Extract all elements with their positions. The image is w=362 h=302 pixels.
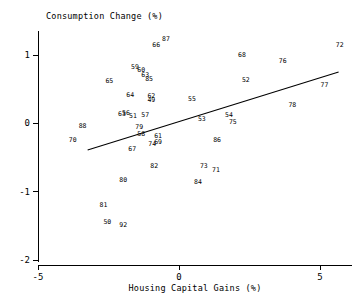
data-point-label: 77 <box>321 81 329 89</box>
data-point-label: 50 <box>103 218 111 226</box>
y-tick-label: -2 <box>19 255 30 265</box>
data-point-label: 57 <box>141 111 149 119</box>
axes-group <box>38 31 352 265</box>
data-point-label: 80 <box>119 176 127 184</box>
chart-canvas: 10-1-2 -505 8766726859766063855265776462… <box>0 0 362 302</box>
y-tick-label: 0 <box>25 118 30 128</box>
data-point-label: 51 <box>129 112 137 120</box>
data-point-label: 55 <box>188 95 196 103</box>
data-point-label: 82 <box>150 162 158 170</box>
x-axis-title: Housing Capital Gains (%) <box>129 283 262 293</box>
data-point-label: 84 <box>194 178 202 186</box>
data-point-label: 68 <box>238 51 246 59</box>
data-point-label: 66 <box>152 41 160 49</box>
data-point-label: 58 <box>137 130 145 138</box>
data-point-label: 69 <box>154 138 162 146</box>
scatter-chart: 10-1-2 -505 8766726859766063855265776462… <box>0 0 362 302</box>
data-point-label: 71 <box>212 166 220 174</box>
data-point-label: 73 <box>200 162 208 170</box>
x-tick-label: -5 <box>33 272 44 282</box>
x-tick-group: -505 <box>33 265 323 282</box>
data-point-label: 87 <box>162 35 170 43</box>
data-point-label: 85 <box>145 75 153 83</box>
data-point-label: 64 <box>126 91 134 99</box>
data-point-label: 92 <box>119 221 127 229</box>
data-point-label: 67 <box>128 145 136 153</box>
data-point-label: 86 <box>213 136 221 144</box>
data-point-label: 72 <box>336 41 344 49</box>
data-point-label: 52 <box>242 76 250 84</box>
data-point-label: 78 <box>288 101 296 109</box>
y-tick-label: 1 <box>25 50 30 60</box>
y-tick-label: -1 <box>19 187 30 197</box>
y-tick-group: 10-1-2 <box>19 50 38 265</box>
data-point-label: 53 <box>198 115 206 123</box>
data-point-label: 65 <box>105 77 113 85</box>
x-tick-label: 0 <box>176 272 181 282</box>
y-axis-title: Consumption Change (%) <box>46 11 163 21</box>
data-point-label: 76 <box>279 57 287 65</box>
data-point-label: 70 <box>69 136 77 144</box>
data-points-group: 8766726859766063855265776462495578635651… <box>69 35 344 229</box>
data-point-label: 75 <box>229 118 237 126</box>
data-point-label: 88 <box>79 122 87 130</box>
data-point-label: 49 <box>147 96 155 104</box>
x-tick-label: 5 <box>317 272 322 282</box>
data-point-label: 81 <box>100 201 108 209</box>
